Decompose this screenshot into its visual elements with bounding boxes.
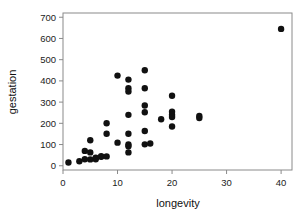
data-point	[82, 148, 88, 154]
data-point	[142, 109, 148, 115]
x-tick-label: 30	[221, 177, 232, 188]
data-point	[158, 116, 164, 122]
data-point	[87, 149, 93, 155]
data-point	[114, 72, 120, 78]
data-point	[147, 140, 153, 146]
y-axis-ticks: 0100200300400500600700	[40, 12, 63, 172]
x-axis-label: longevity	[156, 197, 200, 209]
x-tick-label: 40	[276, 177, 287, 188]
plot-frame	[63, 13, 292, 170]
y-tick-label: 700	[40, 12, 56, 23]
x-tick-label: 10	[112, 177, 123, 188]
data-point	[103, 120, 109, 126]
data-point	[114, 139, 120, 145]
data-point	[125, 112, 131, 118]
x-tick-label: 20	[167, 177, 178, 188]
plot-canvas: 0100200300400500600700 010203040 longevi…	[0, 0, 307, 213]
data-point	[87, 137, 93, 143]
y-tick-label: 600	[40, 33, 56, 44]
y-tick-label: 400	[40, 75, 56, 86]
data-point	[103, 131, 109, 137]
data-point	[142, 67, 148, 73]
y-tick-label: 100	[40, 139, 56, 150]
x-tick-label: 0	[60, 177, 65, 188]
data-point	[125, 131, 131, 137]
data-point	[196, 115, 202, 121]
y-tick-label: 300	[40, 97, 56, 108]
data-point	[142, 141, 148, 147]
data-point	[169, 93, 175, 99]
data-point	[125, 76, 131, 82]
data-point	[142, 102, 148, 108]
data-point	[82, 156, 88, 162]
y-tick-label: 500	[40, 54, 56, 65]
data-point	[142, 85, 148, 91]
data-point	[278, 26, 284, 32]
data-point	[65, 159, 71, 165]
plot-border	[63, 13, 292, 170]
x-axis-ticks: 010203040	[60, 170, 286, 188]
data-point	[76, 158, 82, 164]
y-tick-label: 200	[40, 118, 56, 129]
data-point	[169, 123, 175, 129]
y-tick-label: 0	[51, 160, 56, 171]
scatter-plot-figure: 0100200300400500600700 010203040 longevi…	[0, 0, 307, 213]
data-point	[142, 128, 148, 134]
data-points-layer	[65, 26, 284, 166]
y-axis-label: gestation	[6, 70, 18, 115]
data-point	[98, 153, 104, 159]
data-point	[103, 153, 109, 159]
data-point	[125, 143, 131, 149]
data-point	[125, 149, 131, 155]
data-point	[93, 154, 99, 160]
data-point	[125, 88, 131, 94]
data-point	[87, 156, 93, 162]
data-point	[169, 114, 175, 120]
